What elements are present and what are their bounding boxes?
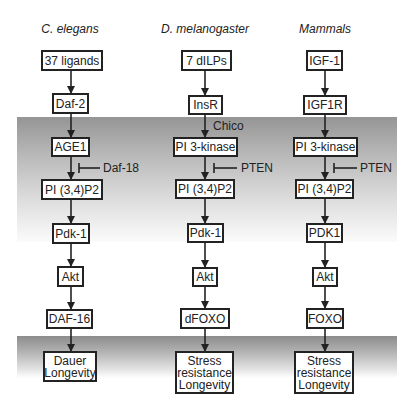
inhibitor-label-daf-18: Daf-18 [103,161,139,175]
node-7-dilps: 7 dILPs [181,50,232,71]
adaptor-label-chico: Chico [213,119,244,133]
node-igf1r: IGF1R [303,95,347,115]
node-akt-c-elegans: Akt [57,266,84,287]
node-pdk-1-c-elegans: Pdk-1 [52,223,90,244]
node-igf-1: IGF-1 [306,50,343,71]
inhibitor-label-pten-d-melanogaster: PTEN [241,161,273,175]
node-age1: AGE1 [51,137,90,157]
node-pi3k-mammals: PI 3-kinase [293,137,358,157]
node-pip2-mammals: PI (3,4)P2 [295,179,354,199]
node-stress-longevity-mammals: Stress resistance Longevity [294,351,354,394]
node-pip2-d-melanogaster: PI (3,4)P2 [175,179,235,199]
node-pip2-c-elegans: PI (3,4)P2 [41,179,103,200]
node-akt-mammals: Akt [312,267,338,287]
node-daf-2: Daf-2 [52,93,89,114]
node-insr: InsR [188,95,223,115]
node-dauer-longevity: Dauer Longevity [43,351,97,382]
insulin-signaling-diagram: C. elegans D. melanogaster Mammals [0,0,413,409]
node-dfoxo: dFOXO [180,308,230,329]
node-pi3k-d-melanogaster: PI 3-kinase [173,137,238,157]
node-pdk-1-d-melanogaster: Pdk-1 [187,223,224,243]
node-foxo: FOXO [306,308,344,329]
node-pdk1-mammals: PDK1 [306,223,343,243]
node-stress-longevity-d-melanogaster: Stress resistance Longevity [175,351,234,394]
node-37-ligands: 37 ligands [41,50,103,71]
node-akt-d-melanogaster: Akt [192,267,218,287]
node-daf-16: DAF-16 [46,309,93,329]
inhibitor-label-pten-mammals: PTEN [360,161,392,175]
